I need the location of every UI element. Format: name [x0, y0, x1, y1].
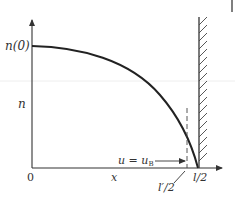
density-curve: [32, 46, 198, 168]
l-prime-half-label: l′/2: [158, 181, 175, 194]
density-profile-diagram: n(0) n 0 x l/2 l′/2 u = uB: [0, 0, 235, 198]
y-axis-label: n: [18, 97, 26, 111]
n0-label: n(0): [5, 39, 30, 53]
l-half-label: l/2: [193, 171, 207, 184]
origin-label: 0: [27, 171, 34, 184]
x-axis-label: x: [111, 171, 118, 184]
annotation-label: u = uB: [118, 154, 154, 168]
wall: [199, 17, 207, 168]
marker-leader-line: [174, 171, 185, 183]
